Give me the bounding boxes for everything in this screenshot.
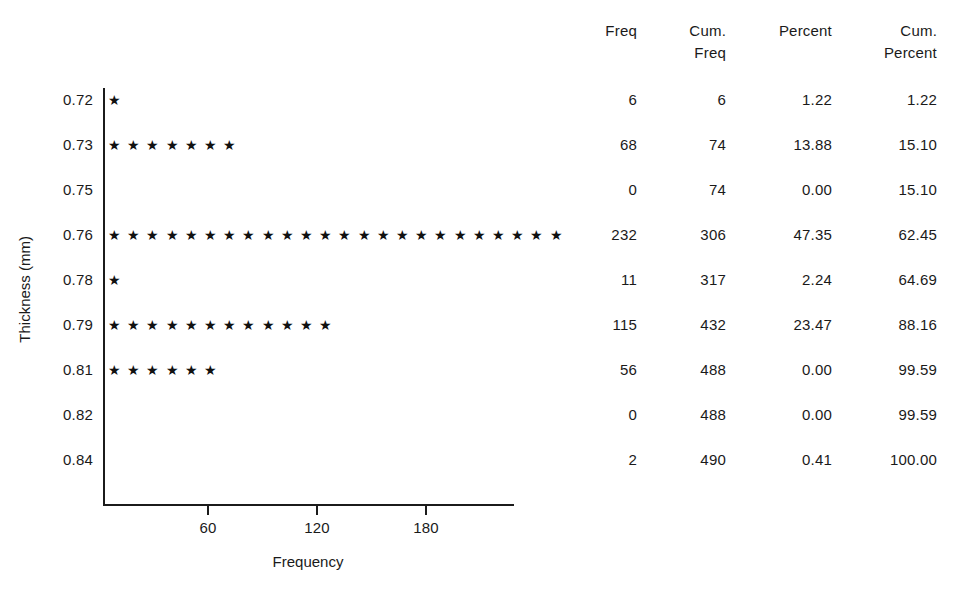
cell-cum-percent: 15.10 [847, 136, 937, 153]
y-tick-label: 0.75 [33, 181, 93, 198]
cell-cum-freq: 306 [646, 226, 726, 243]
cell-percent: 47.35 [742, 226, 832, 243]
cell-freq: 68 [557, 136, 637, 153]
cell-cum-percent: 99.59 [847, 406, 937, 423]
cell-percent: 0.00 [742, 406, 832, 423]
star-plot-marks: ★ [108, 269, 127, 291]
cell-freq: 115 [557, 316, 637, 333]
cell-percent: 0.00 [742, 181, 832, 198]
column-header-cum-freq: Cum. Freq [646, 20, 726, 64]
table-row: 0.81 ★★★★★★ 56 488 0.00 99.59 [0, 359, 963, 381]
cell-cum-percent: 100.00 [847, 451, 937, 468]
x-tick-60 [207, 506, 209, 515]
column-header-percent-line1: Percent [779, 22, 832, 39]
x-axis-line [103, 504, 514, 506]
cell-cum-percent: 64.69 [847, 271, 937, 288]
table-row: 0.76 ★★★★★★★★★★★★★★★★★★★★★★★★ 232 306 47… [0, 224, 963, 246]
table-row: 0.78 ★ 11 317 2.24 64.69 [0, 269, 963, 291]
cell-cum-percent: 1.22 [847, 91, 937, 108]
y-tick-label: 0.84 [33, 451, 93, 468]
y-tick-label: 0.78 [33, 271, 93, 288]
cell-cum-freq: 488 [646, 361, 726, 378]
cell-cum-freq: 74 [646, 136, 726, 153]
cell-percent: 0.41 [742, 451, 832, 468]
cell-freq: 6 [557, 91, 637, 108]
y-tick-label: 0.82 [33, 406, 93, 423]
star-plot-marks: ★★★★★★★ [108, 134, 242, 156]
column-header-cum-percent-line1: Cum. [900, 22, 937, 39]
table-row: 0.72 ★ 6 6 1.22 1.22 [0, 89, 963, 111]
column-header-freq-line1: Freq [605, 22, 637, 39]
x-tick-label-1: 120 [304, 519, 330, 536]
star-plot-marks: ★ [108, 89, 127, 111]
cell-percent: 0.00 [742, 361, 832, 378]
column-header-freq: Freq [557, 20, 637, 42]
cell-cum-percent: 15.10 [847, 181, 937, 198]
table-row: 0.75 0 74 0.00 15.10 [0, 179, 963, 201]
cell-percent: 2.24 [742, 271, 832, 288]
x-axis-title: Frequency [273, 553, 344, 570]
y-tick-label: 0.73 [33, 136, 93, 153]
cell-cum-percent: 99.59 [847, 361, 937, 378]
cell-freq: 11 [557, 271, 637, 288]
column-header-cum-freq-line1: Cum. [689, 22, 726, 39]
cell-cum-freq: 488 [646, 406, 726, 423]
cell-percent: 1.22 [742, 91, 832, 108]
column-header-percent: Percent [742, 20, 832, 42]
y-tick-label: 0.81 [33, 361, 93, 378]
x-tick-label-0: 60 [199, 519, 216, 536]
cell-freq: 0 [557, 181, 637, 198]
cell-freq: 2 [557, 451, 637, 468]
table-row: 0.73 ★★★★★★★ 68 74 13.88 15.10 [0, 134, 963, 156]
cell-freq: 0 [557, 406, 637, 423]
x-tick-label-2: 180 [413, 519, 439, 536]
cell-percent: 13.88 [742, 136, 832, 153]
cell-cum-percent: 88.16 [847, 316, 937, 333]
star-plot-marks: ★★★★★★★★★★★★★★★★★★★★★★★★ [108, 224, 569, 246]
star-plot-marks: ★★★★★★ [108, 359, 223, 381]
column-header-cum-freq-line2: Freq [646, 42, 726, 64]
y-tick-label: 0.76 [33, 226, 93, 243]
cell-cum-freq: 74 [646, 181, 726, 198]
cell-cum-freq: 6 [646, 91, 726, 108]
cell-freq: 56 [557, 361, 637, 378]
cell-cum-freq: 490 [646, 451, 726, 468]
y-tick-label: 0.79 [33, 316, 93, 333]
cell-cum-percent: 62.45 [847, 226, 937, 243]
table-row: 0.84 2 490 0.41 100.00 [0, 449, 963, 471]
star-plot-marks: ★★★★★★★★★★★★ [108, 314, 338, 336]
column-header-cum-percent-line2: Percent [847, 42, 937, 64]
chart-page: 60 120 180 Frequency Thickness (mm) Freq… [0, 0, 963, 593]
cell-freq: 232 [557, 226, 637, 243]
column-header-cum-percent: Cum. Percent [847, 20, 937, 64]
cell-cum-freq: 317 [646, 271, 726, 288]
table-row: 0.79 ★★★★★★★★★★★★ 115 432 23.47 88.16 [0, 314, 963, 336]
cell-cum-freq: 432 [646, 316, 726, 333]
table-row: 0.82 0 488 0.00 99.59 [0, 404, 963, 426]
x-tick-180 [425, 506, 427, 515]
cell-percent: 23.47 [742, 316, 832, 333]
y-tick-label: 0.72 [33, 91, 93, 108]
x-tick-120 [316, 506, 318, 515]
